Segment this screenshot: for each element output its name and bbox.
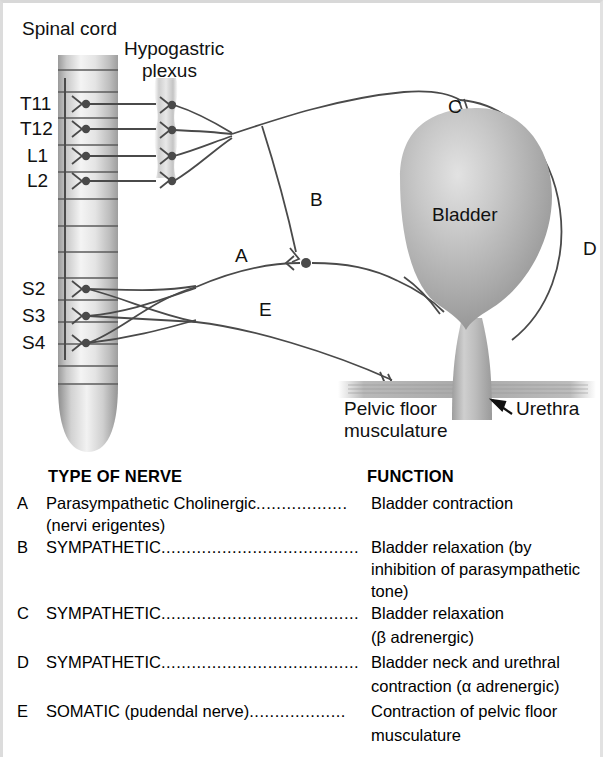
legend-nerve-d: SYMPATHETIC.............................… [46, 653, 371, 672]
legend-function-c: Bladder relaxation [371, 604, 603, 623]
marker-nerve-b: B [310, 189, 323, 210]
legend-nerve-a-text: Parasympathetic Cholinergic [46, 494, 256, 512]
legend-key-d: D [17, 653, 29, 672]
marker-nerve-a: A [235, 245, 248, 266]
legend-header-function: FUNCTION [367, 467, 454, 486]
pelvic-ganglion-dot [301, 258, 311, 268]
legend-function-d: Bladder neck and urethral [371, 653, 603, 672]
marker-nerve-e: E [259, 299, 272, 320]
figure-page: Spinal cord Hypogastric plexus T11 T12 L… [0, 0, 603, 757]
legend-nerve-e-text: SOMATIC (pudendal nerve) [46, 702, 249, 720]
legend-nerve-c-text: SYMPATHETIC [46, 604, 161, 622]
label-segment-t12: T12 [20, 118, 53, 139]
legend-nerve-b: SYMPATHETIC.............................… [46, 538, 371, 557]
label-segment-s3: S3 [22, 305, 45, 326]
label-pelvic-floor-line2: musculature [344, 420, 448, 441]
legend-function-b-line3: tone) [371, 582, 409, 601]
marker-nerve-c: C [448, 96, 462, 117]
legend-key-a: A [17, 494, 28, 513]
legend-leader-c: ....................................... [161, 604, 359, 622]
legend-function-b-line2: inhibition of parasympathetic [371, 560, 580, 579]
legend-leader-d: ....................................... [161, 653, 359, 671]
label-spinal-cord: Spinal cord [22, 18, 117, 39]
legend-nerve-a-sub: (nervi erigentes) [46, 516, 165, 535]
legend-nerve-c: SYMPATHETIC.............................… [46, 604, 371, 623]
legend-nerve-a: Parasympathetic Cholinergic.............… [46, 494, 371, 513]
label-segment-l1: L1 [27, 145, 48, 166]
nerve-function-legend: TYPE OF NERVE FUNCTION A Parasympathetic… [0, 462, 603, 757]
nerve-path-a [196, 256, 444, 314]
legend-function-d-line2: contraction (α adrenergic) [371, 677, 559, 696]
label-bladder: Bladder [432, 204, 498, 225]
bladder-graphic [400, 108, 552, 420]
urethra-arrow [492, 400, 512, 414]
legend-nerve-b-text: SYMPATHETIC [46, 538, 161, 556]
legend-leader-b: ....................................... [161, 538, 359, 556]
label-hypogastric-plexus-line2: plexus [142, 60, 197, 81]
label-hypogastric-plexus-line1: Hypogastric [124, 38, 224, 59]
label-urethra: Urethra [516, 398, 579, 419]
legend-key-c: C [17, 604, 29, 623]
label-segment-s4: S4 [22, 332, 45, 353]
legend-function-c-line2: (β adrenergic) [371, 628, 474, 647]
label-pelvic-floor-line1: Pelvic floor [344, 398, 437, 419]
diagram-artwork [0, 0, 603, 460]
legend-nerve-e: SOMATIC (pudendal nerve)................… [46, 702, 371, 721]
legend-function-a: Bladder contraction [371, 494, 603, 513]
legend-function-e: Contraction of pelvic floor [371, 702, 603, 721]
legend-function-e-line2: musculature [371, 726, 461, 745]
label-segment-t11: T11 [20, 93, 51, 114]
legend-function-b: Bladder relaxation (by [371, 538, 603, 557]
label-segment-s2: S2 [22, 278, 45, 299]
legend-leader-e: ................... [249, 702, 346, 720]
nerve-path-b [262, 126, 299, 262]
marker-nerve-d: D [583, 238, 597, 259]
legend-leader-a: .................. [256, 494, 348, 512]
legend-header-type-of-nerve: TYPE OF NERVE [48, 467, 182, 486]
spinal-cord-graphic [58, 55, 118, 452]
legend-key-e: E [17, 702, 28, 721]
legend-key-b: B [17, 538, 28, 557]
anatomy-diagram: Spinal cord Hypogastric plexus T11 T12 L… [0, 0, 603, 460]
legend-nerve-d-text: SYMPATHETIC [46, 653, 161, 671]
label-segment-l2: L2 [27, 170, 48, 191]
